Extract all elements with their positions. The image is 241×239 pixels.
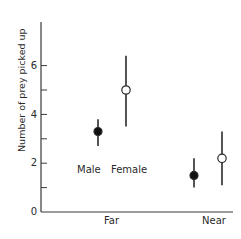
y-tick-label-2: 2 xyxy=(25,158,37,168)
y-tick-label-4: 4 xyxy=(25,110,37,120)
y-tick-label-0: 0 xyxy=(25,207,37,217)
x-category-far: Far xyxy=(104,216,119,226)
legend-label-male: Male xyxy=(77,165,101,175)
point-male-far xyxy=(94,127,102,135)
y-tick-label-6: 6 xyxy=(25,61,37,71)
legend-label-female: Female xyxy=(111,165,147,175)
y-ticks xyxy=(41,66,47,188)
x-category-near: Near xyxy=(202,216,226,226)
point-female-far xyxy=(122,86,130,94)
y-axis-label: Number of prey picked up xyxy=(17,30,27,152)
point-male-near xyxy=(190,171,198,179)
point-female-near xyxy=(218,154,226,162)
chart: Number of prey picked up 6 4 2 0 Male Fe… xyxy=(0,0,241,239)
